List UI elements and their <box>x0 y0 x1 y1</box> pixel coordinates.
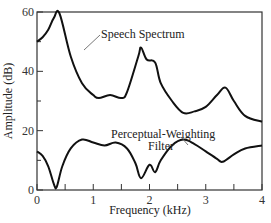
annotations: Speech SpectrumPerceptual-WeightingFilte… <box>84 27 215 153</box>
x-tick-label: 3 <box>203 193 209 207</box>
x-tick-label: 4 <box>259 193 265 207</box>
y-tick-label: 20 <box>22 124 34 138</box>
y-axis: 0204060 <box>22 5 43 197</box>
x-tick-label: 1 <box>90 193 96 207</box>
y-tick-label: 60 <box>22 5 34 19</box>
annotation-speech-spectrum: Speech Spectrum <box>101 27 185 41</box>
y-tick-label: 40 <box>22 64 34 78</box>
x-tick-label: 0 <box>34 193 40 207</box>
annotation-filter: Filter <box>148 139 174 153</box>
line-chart: 0204060 01234 Speech SpectrumPerceptual-… <box>0 0 271 223</box>
y-axis-label: Amplitude (dB) <box>1 63 15 139</box>
x-axis-label: Frequency (kHz) <box>109 203 191 217</box>
